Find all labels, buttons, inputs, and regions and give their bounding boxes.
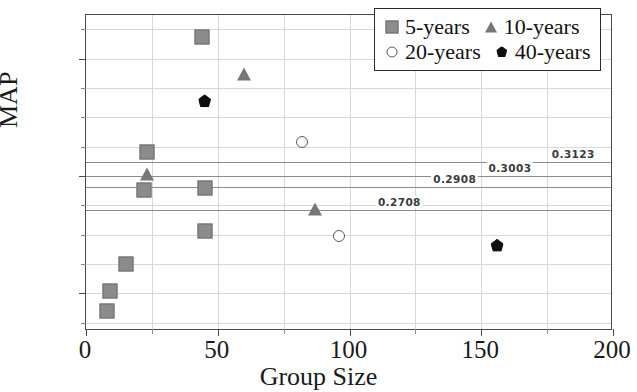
y-axis-title: MAP (0, 72, 24, 128)
legend-label: 10-years (504, 16, 580, 38)
legend-label: 20-years (405, 41, 481, 63)
legend-entry-20-years: 20-years (384, 41, 481, 63)
legend-label: 5-years (405, 16, 470, 38)
y-axis-tick-minor (81, 235, 86, 236)
data-point-20-years (333, 230, 345, 242)
gridline-horizontal (86, 88, 611, 89)
pentagon-icon (494, 44, 510, 60)
reference-line (86, 176, 611, 177)
gridline-horizontal (86, 147, 611, 148)
y-axis-tick-minor (81, 29, 86, 30)
data-point-10-years (237, 67, 251, 80)
open-circle-glyph (387, 46, 398, 57)
gridline-horizontal (86, 264, 611, 265)
legend-entry-10-years: 10-years (483, 16, 580, 38)
reference-line-label: 0.2708 (376, 196, 423, 208)
legend-label: 40-years (515, 41, 591, 63)
reference-line-label: 0.2908 (431, 173, 478, 185)
reference-line (86, 187, 611, 188)
triangle-icon (483, 19, 499, 35)
data-point-5-years (197, 224, 212, 239)
data-point-5-years (197, 180, 212, 195)
data-point-5-years (102, 284, 117, 299)
x-axis-tick (86, 329, 87, 336)
square-icon (384, 19, 400, 35)
x-axis-tick-minor (415, 329, 416, 334)
gridline-horizontal (86, 323, 611, 324)
data-point-10-years (308, 202, 322, 215)
x-axis-title: Group Size (0, 362, 637, 392)
gridline-vertical (350, 15, 351, 329)
gridline-horizontal (86, 205, 611, 206)
legend-entry-40-years: 40-years (494, 41, 591, 63)
gridline-vertical (284, 15, 285, 329)
y-axis-tick (79, 293, 86, 294)
x-axis-tick-label: 200 (593, 336, 631, 364)
gridline-horizontal (86, 235, 611, 236)
x-axis-tick (218, 329, 219, 336)
square-glyph (386, 20, 399, 33)
data-point-40-years (198, 94, 211, 107)
y-axis-tick-minor (81, 323, 86, 324)
data-point-5-years (137, 183, 152, 198)
pentagon-glyph (496, 46, 507, 57)
x-axis-tick-label: 0 (79, 336, 92, 364)
legend-entry-5-years: 5-years (384, 16, 470, 38)
x-axis-tick (481, 329, 482, 336)
data-point-20-years (296, 136, 308, 148)
x-axis-tick-label: 50 (204, 336, 229, 364)
y-axis-tick-minor (81, 147, 86, 148)
x-axis-tick (613, 329, 614, 336)
gridline-horizontal (86, 293, 611, 294)
x-axis-tick-minor (152, 329, 153, 334)
x-axis-tick-label: 150 (462, 336, 500, 364)
gridline-vertical (218, 15, 219, 329)
x-axis-tick-label: 100 (330, 336, 368, 364)
data-point-10-years (140, 167, 154, 180)
x-axis-tick-minor (547, 329, 548, 334)
x-axis-tick (350, 329, 351, 336)
open-circle-icon (384, 44, 400, 60)
data-point-5-years (139, 145, 154, 160)
data-point-40-years (491, 239, 504, 252)
triangle-glyph (485, 21, 497, 32)
y-axis-tick (79, 59, 86, 60)
legend-row: 20-years40-years (384, 39, 591, 64)
data-point-5-years (118, 257, 133, 272)
data-point-5-years (100, 304, 115, 319)
y-axis-tick (79, 176, 86, 177)
x-axis-tick-minor (284, 329, 285, 334)
y-axis-tick-minor (81, 264, 86, 265)
chart-legend: 5-years10-years20-years40-years (374, 8, 601, 71)
y-axis-tick-minor (81, 205, 86, 206)
y-axis-tick-minor (81, 117, 86, 118)
reference-line (86, 210, 611, 211)
legend-row: 5-years10-years (384, 14, 591, 39)
data-point-5-years (194, 30, 209, 45)
reference-line-label: 0.3003 (487, 162, 534, 174)
reference-line-label: 0.3123 (550, 148, 597, 160)
gridline-horizontal (86, 117, 611, 118)
y-axis-tick-minor (81, 88, 86, 89)
